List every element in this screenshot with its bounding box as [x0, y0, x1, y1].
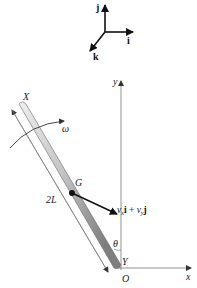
- k-arrow-icon: [90, 32, 105, 51]
- j-label: j: [95, 2, 99, 13]
- rod-end-label: X: [22, 91, 30, 102]
- Y-label: Y: [122, 256, 129, 267]
- rod: X: [19, 91, 121, 269]
- rod-body: [19, 102, 121, 269]
- y-axis-label: y: [112, 76, 118, 87]
- origin-label: O: [122, 273, 129, 284]
- length-dimension: 2L: [12, 110, 108, 272]
- rod-diagram: j i k y x O Y θ 2L X ω G vxi + vyj: [0, 0, 197, 288]
- coordinate-axes: y x O Y: [112, 76, 191, 284]
- x-axis-label: x: [185, 271, 191, 282]
- unit-vector-triad: j i k: [90, 2, 133, 62]
- omega-label: ω: [62, 123, 69, 134]
- center-label: G: [75, 177, 82, 188]
- length-label: 2L: [46, 194, 57, 205]
- i-label: i: [127, 35, 130, 46]
- velocity-label: vxi + vyj: [117, 205, 147, 216]
- theta-label: θ: [113, 238, 118, 249]
- theta-arc: [114, 249, 121, 250]
- k-label: k: [93, 51, 99, 62]
